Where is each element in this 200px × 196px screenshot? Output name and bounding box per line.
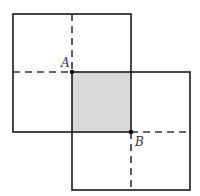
point-a-label: A: [60, 56, 70, 70]
point-a-dot: [70, 70, 75, 75]
point-b-label: B: [134, 135, 144, 149]
point-b-dot: [129, 130, 134, 135]
shaded-overlap-region: [72, 72, 131, 132]
overlapping-squares-diagram: A B: [0, 0, 200, 196]
